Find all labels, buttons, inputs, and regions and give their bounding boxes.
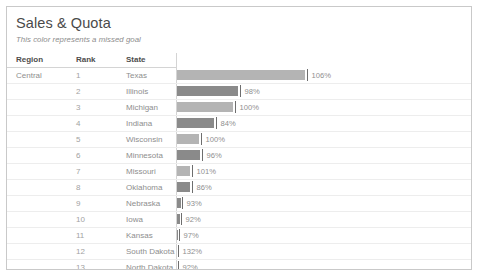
data-table-container[interactable]: Region Rank State Central1Texas106%2Illi… — [7, 53, 471, 269]
bar-track: 106% — [177, 68, 472, 83]
table-row[interactable]: 12South Dakota132% — [7, 243, 471, 259]
cell-state: Missouri — [117, 163, 176, 179]
bar-missed-goal[interactable] — [177, 118, 214, 128]
bar-value-label: 92% — [186, 215, 201, 224]
bar-met-goal[interactable] — [177, 102, 233, 112]
cell-quota-bar[interactable]: 92% — [176, 211, 471, 227]
cell-quota-bar[interactable]: 84% — [176, 115, 471, 131]
cell-rank: 10 — [67, 211, 117, 227]
column-header-state[interactable]: State — [117, 53, 176, 68]
cell-quota-bar[interactable]: 96% — [176, 147, 471, 163]
bar-end-tick — [181, 213, 183, 225]
cell-rank: 8 — [67, 179, 117, 195]
sales-quota-table: Region Rank State Central1Texas106%2Illi… — [7, 53, 471, 270]
bar-met-goal[interactable] — [177, 70, 305, 80]
cell-rank: 7 — [67, 163, 117, 179]
bar-track: 96% — [177, 148, 472, 163]
bar-track: 132% — [177, 244, 472, 259]
table-header: Region Rank State — [7, 53, 471, 68]
cell-region: Central — [7, 68, 67, 84]
table-row[interactable]: 13North Dakota92% — [7, 259, 471, 270]
viz-subtitle: This color represents a missed goal — [16, 34, 471, 45]
bar-track: 93% — [177, 196, 472, 211]
bar-value-label: 96% — [207, 151, 222, 160]
table-row[interactable]: 6Minnesota96% — [7, 147, 471, 163]
bar-end-tick — [240, 85, 242, 97]
bar-value-label: 93% — [187, 199, 202, 208]
bar-end-tick — [235, 101, 237, 113]
visualization-frame: Sales & Quota This color represents a mi… — [6, 6, 472, 270]
cell-state: Minnesota — [117, 147, 176, 163]
cell-state: North Dakota — [117, 259, 176, 270]
bar-missed-goal[interactable] — [177, 150, 200, 160]
table-row[interactable]: 4Indiana84% — [7, 115, 471, 131]
table-row[interactable]: 10Iowa92% — [7, 211, 471, 227]
cell-quota-bar[interactable]: 92% — [176, 259, 471, 270]
bar-met-goal[interactable] — [177, 166, 190, 176]
cell-region — [7, 147, 67, 163]
cell-region — [7, 179, 67, 195]
column-header-rank[interactable]: Rank — [67, 53, 117, 68]
cell-region — [7, 195, 67, 211]
bar-end-tick — [178, 261, 180, 271]
table-header-row: Region Rank State — [7, 53, 471, 68]
cell-rank: 4 — [67, 115, 117, 131]
table-row[interactable]: 2Illinois98% — [7, 83, 471, 99]
bar-track: 92% — [177, 212, 472, 227]
bar-value-label: 101% — [197, 167, 216, 176]
bar-met-goal[interactable] — [177, 134, 199, 144]
bar-end-tick — [192, 181, 194, 193]
table-row[interactable]: Central1Texas106% — [7, 68, 471, 84]
cell-quota-bar[interactable]: 86% — [176, 179, 471, 195]
bar-missed-goal[interactable] — [177, 230, 178, 240]
cell-state: South Dakota — [117, 243, 176, 259]
bar-track: 84% — [177, 116, 472, 131]
cell-quota-bar[interactable]: 106% — [176, 68, 471, 84]
bar-missed-goal[interactable] — [177, 214, 180, 224]
bar-value-label: 100% — [206, 135, 225, 144]
cell-region — [7, 115, 67, 131]
cell-region — [7, 163, 67, 179]
bar-missed-goal[interactable] — [177, 182, 190, 192]
bar-track: 97% — [177, 228, 472, 243]
table-row[interactable]: 7Missouri101% — [7, 163, 471, 179]
cell-quota-bar[interactable]: 100% — [176, 131, 471, 147]
cell-state: Wisconsin — [117, 131, 176, 147]
table-row[interactable]: 5Wisconsin100% — [7, 131, 471, 147]
cell-quota-bar[interactable]: 98% — [176, 83, 471, 99]
cell-quota-bar[interactable]: 93% — [176, 195, 471, 211]
table-row[interactable]: 8Oklahoma86% — [7, 179, 471, 195]
column-header-quota[interactable] — [176, 53, 471, 68]
bar-value-label: 98% — [245, 87, 260, 96]
bar-missed-goal[interactable] — [177, 86, 238, 96]
table-row[interactable]: 3Michigan100% — [7, 99, 471, 115]
bar-value-label: 86% — [197, 183, 212, 192]
cell-state: Illinois — [117, 83, 176, 99]
bar-track: 100% — [177, 100, 472, 115]
cell-quota-bar[interactable]: 132% — [176, 243, 471, 259]
bar-value-label: 100% — [240, 103, 259, 112]
cell-rank: 2 — [67, 83, 117, 99]
cell-region — [7, 83, 67, 99]
table-row[interactable]: 9Nebraska93% — [7, 195, 471, 211]
cell-state: Oklahoma — [117, 179, 176, 195]
cell-state: Iowa — [117, 211, 176, 227]
bar-track: 100% — [177, 132, 472, 147]
bar-end-tick — [307, 69, 309, 81]
cell-rank: 9 — [67, 195, 117, 211]
table-row[interactable]: 11Kansas97% — [7, 227, 471, 243]
cell-region — [7, 227, 67, 243]
cell-region — [7, 99, 67, 115]
bar-missed-goal[interactable] — [177, 198, 181, 208]
bar-value-label: 106% — [312, 71, 331, 80]
cell-rank: 1 — [67, 68, 117, 84]
page-title: Sales & Quota — [16, 15, 471, 32]
cell-quota-bar[interactable]: 100% — [176, 99, 471, 115]
cell-quota-bar[interactable]: 101% — [176, 163, 471, 179]
cell-region — [7, 259, 67, 270]
bar-end-tick — [192, 165, 194, 177]
bar-value-label: 97% — [184, 231, 199, 240]
cell-state: Nebraska — [117, 195, 176, 211]
column-header-region[interactable]: Region — [7, 53, 67, 68]
cell-quota-bar[interactable]: 97% — [176, 227, 471, 243]
